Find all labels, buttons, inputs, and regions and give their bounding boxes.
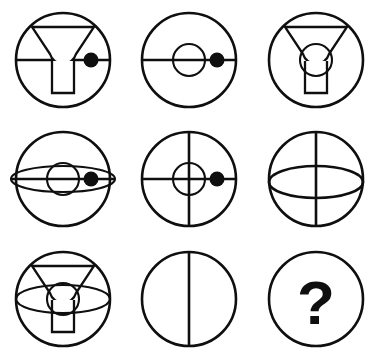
cell-2-figure: [134, 5, 244, 115]
matrix-cell-1[interactable]: [0, 0, 126, 120]
matrix-cell-3[interactable]: [253, 0, 379, 120]
filled-dot: [210, 172, 225, 187]
matrix-cell-8[interactable]: [126, 239, 252, 359]
question-mark-icon: ?: [297, 268, 335, 337]
filled-dot: [84, 52, 99, 67]
trophy-stem: [52, 61, 74, 93]
cell-8-figure: [134, 244, 244, 354]
filled-dot: [210, 52, 225, 67]
matrix-cell-6[interactable]: [253, 120, 379, 240]
matrix-cell-5[interactable]: [126, 120, 252, 240]
matrix-cell-2[interactable]: [126, 0, 252, 120]
matrix-puzzle: ?: [0, 0, 379, 359]
cell-6-figure: [261, 124, 371, 234]
cell-5-figure: [134, 124, 244, 234]
cell-4-figure: [8, 124, 118, 234]
cell-7-figure: [8, 244, 118, 354]
matrix-cell-7[interactable]: [0, 239, 126, 359]
cell-1-figure: [8, 5, 118, 115]
cell-9-figure: ?: [261, 244, 371, 354]
matrix-cell-4[interactable]: [0, 120, 126, 240]
filled-dot: [84, 172, 99, 187]
matrix-cell-9-answer[interactable]: ?: [253, 239, 379, 359]
cell-3-figure: [261, 5, 371, 115]
matrix-grid: ?: [0, 0, 379, 359]
trophy-bowl: [285, 27, 347, 64]
